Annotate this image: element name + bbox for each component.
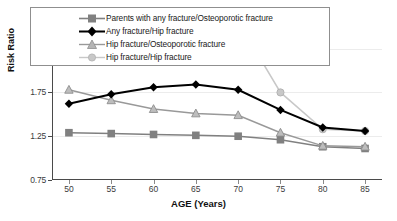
data-point xyxy=(192,80,200,88)
y-tick-label: 0.75 xyxy=(6,175,46,185)
x-tick-label: 70 xyxy=(218,184,258,194)
legend-label: Parents with any fracture/Osteoporotic f… xyxy=(106,12,273,25)
chart-legend: Parents with any fracture/Osteoporotic f… xyxy=(30,7,330,66)
x-tick-label: 50 xyxy=(49,184,89,194)
data-point xyxy=(65,100,73,108)
data-point xyxy=(107,90,115,98)
data-point xyxy=(150,131,158,139)
x-tick-label: 55 xyxy=(91,184,131,194)
legend-label: Hip fracture/Hip fracture xyxy=(106,51,192,64)
series-2 xyxy=(65,80,370,135)
data-point xyxy=(65,85,73,93)
y-tick-label: 1.75 xyxy=(6,87,46,97)
data-point xyxy=(234,132,242,140)
legend-item-hip-osteoporotic: Hip fracture/Osteoporotic fracture xyxy=(78,38,329,51)
legend-marker-diamond-icon xyxy=(78,25,106,38)
series-line xyxy=(69,90,365,147)
x-tick-label: 80 xyxy=(303,184,343,194)
data-point xyxy=(107,130,115,138)
y-axis-title: Risk Ratio xyxy=(6,28,16,72)
legend-marker-circle-icon xyxy=(78,51,106,64)
legend-item-any-fracture-hip: Any fracture/Hip fracture xyxy=(78,25,329,38)
x-tick-label: 85 xyxy=(345,184,385,194)
data-point xyxy=(234,86,242,94)
x-tick-label: 65 xyxy=(176,184,216,194)
data-point xyxy=(361,127,369,135)
chart-figure: 0.751.251.752.25 5055606570758085 Risk R… xyxy=(0,0,397,221)
data-point xyxy=(192,132,200,140)
data-point xyxy=(276,106,284,114)
x-tick-label: 60 xyxy=(134,184,174,194)
legend-item-parents-any-osteoporotic: Parents with any fracture/Osteoporotic f… xyxy=(78,12,329,25)
y-tick-label: 1.25 xyxy=(6,131,46,141)
data-point xyxy=(149,83,157,91)
legend-marker-square-icon xyxy=(78,12,106,25)
legend-marker-triangle-icon xyxy=(78,38,106,51)
data-point xyxy=(277,89,284,96)
legend-item-hip-hip: Hip fracture/Hip fracture xyxy=(78,51,329,64)
series-line xyxy=(69,85,365,131)
legend-label: Hip fracture/Osteoporotic fracture xyxy=(106,38,225,51)
x-tick-label: 75 xyxy=(260,184,300,194)
y-tick-mark xyxy=(48,180,52,181)
x-axis-title: AGE (Years) xyxy=(0,198,397,209)
legend-label: Any fracture/Hip fracture xyxy=(106,25,193,38)
data-point xyxy=(277,136,285,144)
data-point xyxy=(65,129,73,137)
